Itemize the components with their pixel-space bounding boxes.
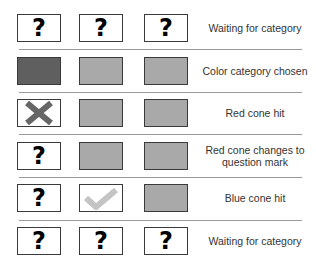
question-mark-icon: ? <box>32 144 46 168</box>
separator <box>19 134 302 135</box>
state-row-waiting-1: ? ? ? Waiting for category <box>0 14 316 44</box>
separator <box>19 177 302 178</box>
slot-3: ? <box>144 227 188 255</box>
slot-1: ? <box>17 142 61 170</box>
slot-2-gray-fill <box>79 99 123 127</box>
question-mark-icon: ? <box>94 16 108 40</box>
slot-2-gray-fill <box>79 57 123 85</box>
state-row-blue-cone-hit: ? Blue cone hit <box>0 184 316 214</box>
question-mark-icon: ? <box>32 229 46 253</box>
slot-1 <box>17 99 61 127</box>
slot-1-dark-fill <box>17 57 61 85</box>
slot-2: ? <box>79 227 123 255</box>
question-mark-icon: ? <box>159 16 173 40</box>
slot-1: ? <box>17 184 61 212</box>
row-label: Waiting for category <box>196 227 314 255</box>
row-label: Red cone changes to question mark <box>196 142 314 170</box>
slot-3-gray-fill <box>144 142 188 170</box>
state-row-category-chosen: Color category chosen <box>0 57 316 87</box>
slot-3-gray-fill <box>144 57 188 85</box>
separator <box>19 49 302 50</box>
slot-1: ? <box>17 14 61 42</box>
separator <box>19 92 302 93</box>
state-row-red-cone-question: ? Red cone changes to question mark <box>0 142 316 172</box>
slot-3: ? <box>144 14 188 42</box>
question-mark-icon: ? <box>32 186 46 210</box>
question-mark-icon: ? <box>159 229 173 253</box>
row-label: Red cone hit <box>196 99 314 127</box>
separator <box>19 220 302 221</box>
x-mark-icon <box>21 101 57 125</box>
question-mark-icon: ? <box>94 229 108 253</box>
slot-2 <box>79 184 123 212</box>
slot-3-gray-fill <box>144 184 188 212</box>
state-row-waiting-2: ? ? ? Waiting for category <box>0 227 316 257</box>
row-label: Waiting for category <box>196 14 314 42</box>
row-label: Color category chosen <box>196 57 314 85</box>
slot-1: ? <box>17 227 61 255</box>
check-mark-icon <box>82 186 120 210</box>
question-mark-icon: ? <box>32 16 46 40</box>
row-label: Blue cone hit <box>196 184 314 212</box>
state-row-red-cone-hit: Red cone hit <box>0 99 316 129</box>
slot-2: ? <box>79 14 123 42</box>
slot-2-gray-fill <box>79 142 123 170</box>
slot-3-gray-fill <box>144 99 188 127</box>
